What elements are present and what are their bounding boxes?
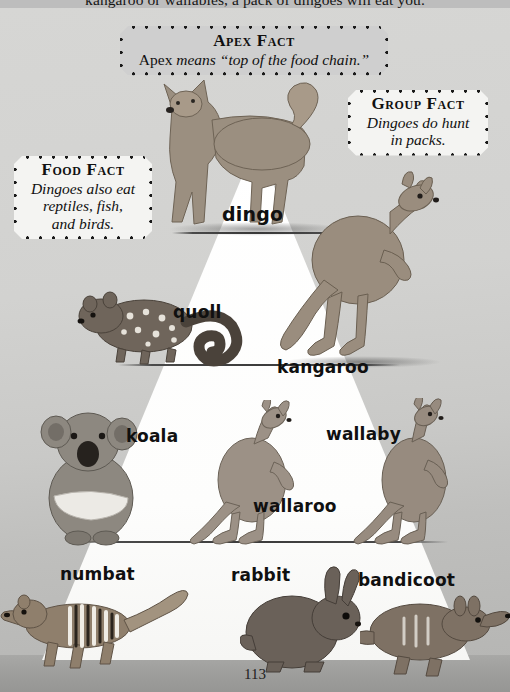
- page-number: 113: [0, 666, 510, 683]
- label-wallaby: wallaby: [326, 424, 401, 444]
- animal-photo-wallaby: [352, 398, 482, 546]
- label-bandicoot: bandicoot: [358, 570, 455, 590]
- label-koala: koala: [126, 426, 178, 446]
- fact-box-group-line-1: Dingoes do hunt: [360, 114, 476, 131]
- fact-box-group-line-2: in packs.: [360, 131, 476, 148]
- fact-box-group-title: Group Fact: [360, 95, 476, 113]
- fact-box-apex-body: Apex means “top of the food chain.”: [137, 51, 371, 68]
- dot-row-top: [127, 25, 381, 29]
- fact-box-food-title: Food Fact: [24, 161, 142, 179]
- dot-col-left: [347, 97, 351, 149]
- label-wallaroo: wallaroo: [253, 496, 337, 516]
- fact-box-food-line-1: Dingoes also eat: [24, 180, 142, 197]
- fact-box-food-line-3: and birds.: [24, 215, 142, 232]
- animal-photo-kangaroo: [280, 168, 455, 368]
- fact-box-apex-title: Apex Fact: [137, 32, 371, 50]
- animal-photo-koala: [36, 398, 146, 546]
- dot-row-top: [355, 89, 481, 93]
- animal-photo-quoll: [68, 282, 248, 368]
- dot-col-left: [119, 33, 123, 68]
- fact-box-food: Food Fact Dingoes also eat reptiles, fis…: [14, 156, 152, 239]
- fact-box-food-inner: Food Fact Dingoes also eat reptiles, fis…: [14, 156, 152, 239]
- label-numbat: numbat: [60, 564, 135, 584]
- fact-box-group: Group Fact Dingoes do hunt in packs.: [348, 90, 488, 156]
- label-dingo: dingo: [222, 203, 283, 225]
- fact-box-apex-body-lead: Apex: [139, 51, 176, 68]
- animal-photo-wallaroo: [190, 400, 330, 546]
- label-kangaroo: kangaroo: [277, 357, 369, 377]
- fact-box-apex: Apex Fact Apex means “top of the food ch…: [120, 26, 388, 75]
- label-quoll: quoll: [173, 302, 222, 322]
- book-page: dingo quoll kangaroo koala wallaby walla…: [0, 0, 510, 692]
- dot-col-left: [13, 163, 17, 232]
- label-rabbit: rabbit: [231, 565, 290, 585]
- page-body-text: kangaroo or wallabies, a pack of dingoes…: [0, 0, 510, 9]
- fact-box-apex-body-italic: means “top of the food chain.”: [176, 51, 369, 68]
- fact-box-food-line-2: reptiles, fish,: [24, 197, 142, 214]
- fact-box-apex-inner: Apex Fact Apex means “top of the food ch…: [120, 26, 388, 75]
- fact-box-group-inner: Group Fact Dingoes do hunt in packs.: [348, 90, 488, 156]
- dot-row-top: [21, 155, 145, 159]
